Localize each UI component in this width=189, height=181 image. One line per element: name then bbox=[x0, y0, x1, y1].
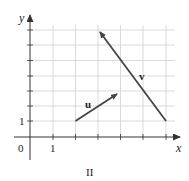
vector-u bbox=[76, 94, 118, 121]
grid bbox=[30, 25, 175, 137]
axis-ticks bbox=[27, 30, 166, 140]
figure-caption: II bbox=[86, 166, 94, 178]
x-axis-label: x bbox=[175, 141, 182, 155]
origin-label: 0 bbox=[18, 142, 24, 154]
vector-u-label: u bbox=[85, 98, 91, 110]
x-tick-label-1: 1 bbox=[50, 142, 56, 154]
vector-v-label: v bbox=[139, 70, 145, 82]
y-axis-label: y bbox=[18, 11, 25, 25]
y-tick-label-1: 1 bbox=[19, 115, 25, 127]
vector-diagram: u v y x 0 1 1 II bbox=[0, 0, 189, 181]
